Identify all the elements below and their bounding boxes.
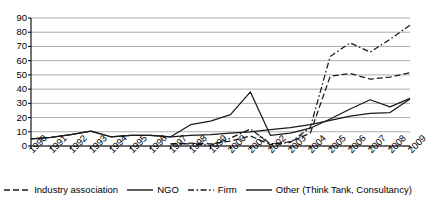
legend-label: Industry association: [34, 185, 118, 195]
x-axis-labels: 1990199119921993199419951996199719981999…: [31, 148, 410, 178]
legend-item-1[interactable]: NGO: [127, 185, 179, 195]
solid-line-icon: [127, 186, 153, 194]
chart-legend: Industry associationNGOFirmOther (Think …: [0, 181, 416, 199]
solid-line-icon: [246, 186, 272, 194]
legend-item-3[interactable]: Other (Think Tank, Consultancy): [246, 185, 412, 195]
legend-item-2[interactable]: Firm: [188, 185, 237, 195]
legend-label: NGO: [157, 185, 179, 195]
dashed-line-icon: [4, 186, 30, 194]
legend-label: Other (Think Tank, Consultancy): [276, 185, 412, 195]
legend-label: Firm: [218, 185, 237, 195]
dash-dot-line-icon: [188, 186, 214, 194]
legend-item-0[interactable]: Industry association: [4, 185, 118, 195]
